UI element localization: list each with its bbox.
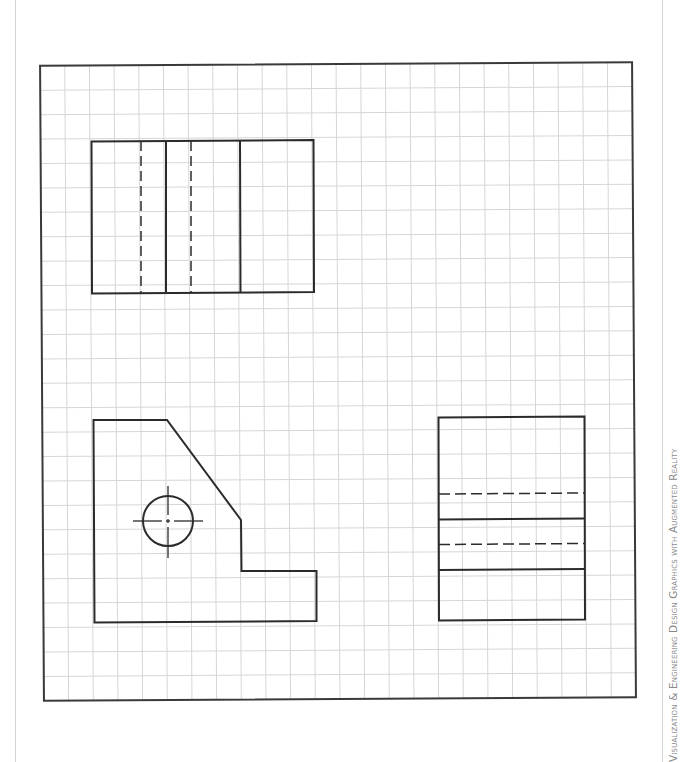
drawing-sheet	[0, 0, 680, 762]
right-view-hidden-edge	[439, 493, 585, 494]
grid-lines	[40, 62, 636, 701]
right-view-visible-edge	[439, 569, 585, 570]
grid-paper	[40, 62, 636, 701]
top-view-visible-edge	[240, 141, 241, 293]
front-view	[94, 420, 317, 623]
right-view-hidden-edge	[439, 544, 585, 545]
front-view-outline	[94, 420, 317, 623]
right-view-visible-edge	[439, 519, 585, 520]
